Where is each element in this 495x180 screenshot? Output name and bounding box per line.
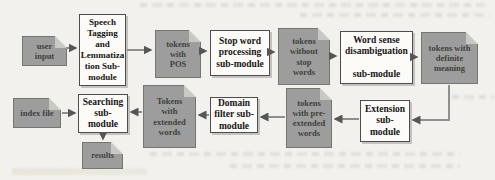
- module-stop-word-processing: Stop word processing sub-module: [210, 30, 270, 76]
- doc-user-input: user input: [22, 36, 67, 66]
- scan-artifact: [452, 95, 494, 99]
- doc-results: results: [82, 142, 123, 169]
- module-domain-filter: Domain filter sub- module: [210, 97, 258, 133]
- module-extension: Extension sub- module: [360, 100, 410, 142]
- doc-tokens-with-pre-extended-words: tokens with pre- extended words: [286, 88, 332, 148]
- doc-tokens-with-extended-words: Tokens with extended words: [143, 85, 196, 148]
- flowchart: user input Speech Tagging and Lemmatiza …: [0, 0, 495, 180]
- module-speech-tagging-lemmatization: Speech Tagging and Lemmatiza tion Sub- m…: [79, 14, 126, 86]
- scan-artifact: [140, 3, 485, 7]
- scan-highlight-artifact: [12, 168, 147, 175]
- module-word-sense-disambiguation: Word sense disambiguation sub-module: [340, 31, 413, 84]
- arrow-tokens-definite-to-extension: [413, 85, 449, 120]
- doc-tokens-without-stop-words: tokens without stop words: [278, 28, 330, 85]
- module-searching: Searching sub- module: [78, 94, 128, 133]
- scan-artifact: [150, 152, 460, 156]
- scan-artifact: [300, 13, 490, 17]
- doc-tokens-with-definite-meaning: tokens with definite meaning: [421, 32, 478, 84]
- doc-index-file: index file: [13, 98, 61, 128]
- doc-tokens-with-pos: tokens with POS: [155, 30, 201, 78]
- scan-artifact: [230, 164, 460, 168]
